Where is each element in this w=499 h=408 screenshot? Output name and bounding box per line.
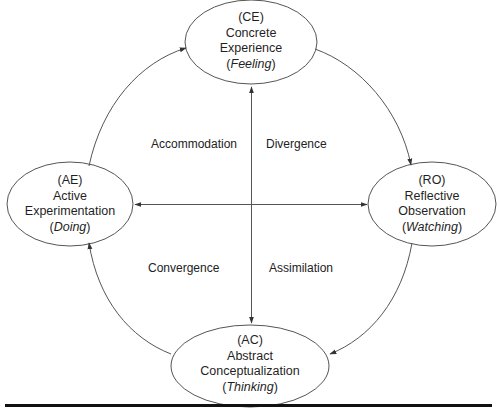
- arc-ce-to-ro-arrow: [315, 49, 411, 165]
- node-ce-line2: Experience: [191, 41, 311, 57]
- node-ro-line2: Observation: [372, 204, 492, 220]
- node-ro-mode: (Watching): [372, 220, 492, 236]
- node-ce-mode-text: Feeling: [231, 57, 272, 71]
- node-ac-mode: (Thinking): [175, 380, 325, 396]
- node-ae: (AE) Active Experimentation (Doing): [5, 173, 135, 235]
- node-ae-code: (AE): [5, 173, 135, 189]
- node-ac-line1: Abstract: [175, 349, 325, 365]
- node-ae-line1: Active: [5, 189, 135, 205]
- node-ce-mode: (Feeling): [191, 57, 311, 73]
- node-ro-line1: Reflective: [372, 189, 492, 205]
- footer-divider-bar: [5, 404, 492, 407]
- node-ro-code: (RO): [372, 173, 492, 189]
- arc-ro-to-ac-arrow: [330, 243, 412, 354]
- node-ce-code: (CE): [191, 10, 311, 26]
- kolb-cycle-diagram: (CE) Concrete Experience (Feeling) (AE) …: [0, 0, 499, 408]
- node-ae-mode-text: Doing: [54, 220, 87, 234]
- quadrant-label-convergence: Convergence: [148, 261, 219, 275]
- node-ce: (CE) Concrete Experience (Feeling): [191, 10, 311, 72]
- node-ro-mode-text: Watching: [406, 220, 458, 234]
- quadrant-label-accommodation: Accommodation: [151, 137, 237, 151]
- node-ac-code: (AC): [175, 333, 325, 349]
- node-ae-mode: (Doing): [5, 220, 135, 236]
- node-ac-line2: Conceptualization: [175, 364, 325, 380]
- quadrant-label-assimilation: Assimilation: [269, 261, 333, 275]
- quadrant-label-divergence: Divergence: [266, 137, 327, 151]
- node-ae-line2: Experimentation: [5, 204, 135, 220]
- node-ce-line1: Concrete: [191, 26, 311, 42]
- arc-ac-to-ae-arrow: [89, 243, 171, 354]
- node-ac-mode-text: Thinking: [226, 380, 273, 394]
- node-ac: (AC) Abstract Conceptualization (Thinkin…: [175, 333, 325, 395]
- node-ro: (RO) Reflective Observation (Watching): [372, 173, 492, 235]
